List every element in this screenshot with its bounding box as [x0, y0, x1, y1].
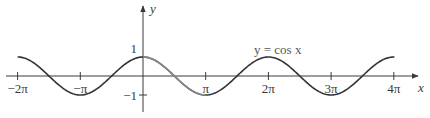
x-axis-label: x	[417, 80, 424, 95]
x-tick-label: 2π	[262, 81, 276, 96]
cosine-chart: −2π−ππ2π3π4π 1−1 y x y = cos x	[0, 0, 430, 118]
y-tick-label: −1	[123, 88, 137, 103]
x-tick-label: −2π	[7, 81, 28, 96]
x-tick-label: 4π	[387, 81, 401, 96]
y-tick-label: 1	[131, 41, 138, 56]
function-annotation: y = cos x	[254, 42, 302, 57]
y-axis-label: y	[148, 1, 156, 16]
x-tick-label: π	[202, 81, 209, 96]
